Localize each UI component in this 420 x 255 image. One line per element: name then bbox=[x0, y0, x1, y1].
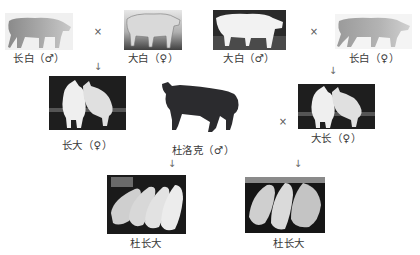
large-white-sow-photo bbox=[124, 10, 182, 50]
arrow-down-icon: ↓ bbox=[294, 159, 302, 169]
large-white-x-landrace-sow-label: 大长（♀） bbox=[311, 130, 361, 145]
landrace-sow-photo bbox=[335, 14, 412, 49]
landrace-x-large-white-sow-label: 长大（♀） bbox=[62, 137, 112, 152]
duroc-landrace-large-white-pigs-photo-right bbox=[245, 177, 325, 233]
cross-symbol-left: × bbox=[94, 26, 102, 37]
large-white-x-landrace-sow-photo bbox=[298, 84, 375, 129]
landrace-boar-photo bbox=[5, 13, 73, 50]
landrace-sow-label: 长白（♀） bbox=[349, 50, 399, 65]
large-white-boar-photo bbox=[213, 10, 286, 50]
large-white-boar-label: 大白（♂） bbox=[223, 50, 275, 65]
cross-symbol-middle: × bbox=[279, 116, 287, 127]
large-white-sow-label: 大白（♀） bbox=[128, 50, 178, 65]
arrow-down-icon: ↓ bbox=[168, 159, 176, 169]
landrace-x-large-white-sow-photo bbox=[49, 76, 126, 130]
arrow-down-icon: ↓ bbox=[329, 66, 337, 76]
arrow-down-icon: ↓ bbox=[94, 62, 102, 72]
cross-symbol-right: × bbox=[310, 26, 318, 37]
duroc-landrace-large-white-pigs-photo-left bbox=[107, 175, 186, 234]
duroc-boar-label: 杜洛克（♂） bbox=[172, 142, 234, 157]
duroc-boar-photo bbox=[160, 80, 242, 133]
landrace-boar-label: 长白（♂） bbox=[13, 50, 65, 65]
offspring-label-right: 杜长大 bbox=[273, 235, 305, 250]
offspring-label-left: 杜长大 bbox=[130, 235, 162, 250]
